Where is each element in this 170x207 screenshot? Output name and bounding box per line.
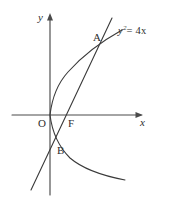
y-axis-label: y [38, 12, 43, 23]
point-label-origin: O [38, 118, 46, 129]
focal-chord-line [31, 18, 112, 190]
equation-annotation: y2= 4x [118, 26, 146, 37]
parabola-figure: y x O F A B y2= 4x [0, 0, 170, 207]
parabola-curve [50, 30, 125, 180]
equation-rhs: = 4x [127, 25, 147, 36]
x-axis-label: x [140, 117, 145, 128]
point-label-focus: F [68, 118, 74, 129]
point-label-b: B [57, 145, 64, 156]
y-axis-arrow-icon [47, 13, 53, 21]
point-label-a: A [93, 32, 101, 43]
